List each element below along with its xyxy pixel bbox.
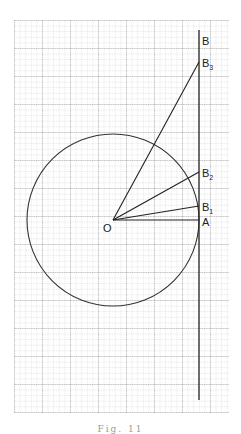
label-B: B xyxy=(202,35,209,47)
label-A: A xyxy=(202,216,210,228)
geometry-figure: O B B3 B2 B1 A xyxy=(0,0,241,434)
graph-paper-grid xyxy=(14,20,229,413)
label-O: O xyxy=(103,222,112,234)
figure-caption: Fig. 11 xyxy=(0,424,241,434)
